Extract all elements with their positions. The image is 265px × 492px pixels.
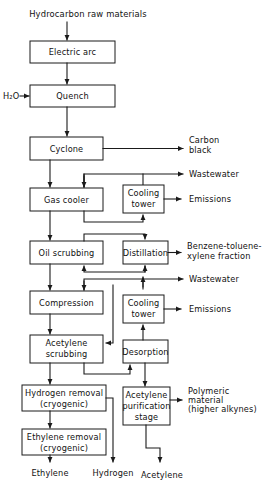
- output-wastewater-2-label: Wastewater: [189, 274, 239, 284]
- edge-hydrogen-removal-to-hydrogen: [106, 398, 113, 462]
- node-cooling-tower-1-label-line2: tower: [131, 199, 156, 209]
- node-ethylene-removal-label-line1: Ethylene removal: [27, 432, 101, 442]
- process-flow-diagram: Hydrocarbon raw materials Electric arc Q…: [0, 0, 265, 492]
- node-acetylene-purification-label-line2: purification: [122, 401, 170, 411]
- node-electric-arc-label: Electric arc: [49, 47, 96, 57]
- node-acetylene-scrubbing-label-line2: scrubbing: [46, 349, 88, 359]
- edge-acetylene-purification-to-acetylene: [146, 425, 160, 462]
- output-carbon-black-label-line1: Carbon: [189, 135, 219, 145]
- output-wastewater-1-label: Wastewater: [189, 169, 239, 179]
- edge-distillation-to-oil-scrubbing: [84, 266, 145, 272]
- output-emissions-2-label: Emissions: [189, 304, 231, 314]
- node-cyclone-label: Cyclone: [50, 144, 84, 154]
- output-btx-label-line1: Benzene-toluene-: [187, 241, 262, 251]
- output-polymeric-label-line3: (higher alkynes): [188, 404, 257, 414]
- feed-input-label: Hydrocarbon raw materials: [29, 9, 147, 19]
- output-carbon-black-label-line2: black: [189, 145, 212, 155]
- node-acetylene-purification-label-line3: stage: [135, 412, 158, 422]
- water-input-label: H₂O: [3, 91, 19, 101]
- edge-to-wastewater-2: [84, 279, 183, 290]
- output-acetylene-label: Acetylene: [141, 470, 183, 480]
- output-hydrogen-label: Hydrogen: [92, 468, 133, 478]
- node-compression-label: Compression: [39, 298, 94, 308]
- node-acetylene-scrubbing-label-line1: Acetylene: [46, 338, 88, 348]
- edge-acetylene-scrubbing-to-desorption: [84, 363, 130, 374]
- node-hydrogen-removal-label-line1: Hydrogen removal: [25, 388, 103, 398]
- node-distillation-label: Distillation: [123, 248, 168, 258]
- node-acetylene-purification-label-line1: Acetylene: [126, 390, 168, 400]
- output-ethylene-label: Ethylene: [31, 468, 68, 478]
- node-desorption-label: Desorption: [122, 347, 168, 357]
- node-cooling-tower-2-label-line2: tower: [131, 309, 156, 319]
- output-btx-label-line2: xylene fraction: [187, 251, 251, 261]
- node-gas-cooler-label: Gas cooler: [44, 195, 89, 205]
- edge-oil-scrubbing-to-distillation: [84, 234, 145, 241]
- node-cooling-tower-2-label-line1: Cooling: [128, 298, 160, 308]
- node-ethylene-removal-label-line2: (cryogenic): [40, 443, 88, 453]
- node-quench-label: Quench: [56, 91, 88, 101]
- node-hydrogen-removal-label-line2: (cryogenic): [40, 399, 88, 409]
- node-cooling-tower-1-label-line1: Cooling: [128, 188, 160, 198]
- edge-recycle-to-acetylene-scrubbing: [106, 285, 113, 343]
- node-oil-scrubbing-label: Oil scrubbing: [39, 248, 95, 258]
- output-emissions-1-label: Emissions: [189, 194, 231, 204]
